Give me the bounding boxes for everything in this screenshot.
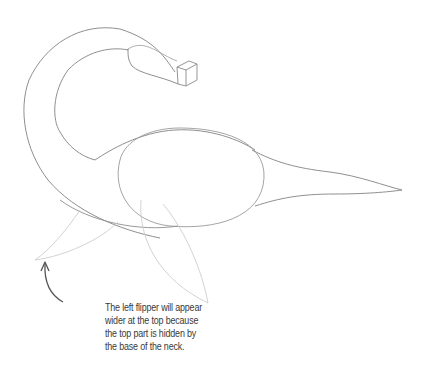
neck-outer-line <box>24 28 175 238</box>
right-flipper <box>141 200 208 303</box>
caption-line-1: The left flipper will appear <box>105 301 225 314</box>
tail-bottom-line <box>255 190 402 206</box>
caption-line-2: wider at the top because <box>105 314 225 327</box>
caption-line-4: the base of the neck. <box>105 340 225 353</box>
caption-line-3: the top part is hidden by <box>105 327 225 340</box>
left-flipper <box>35 210 118 260</box>
tail-top-line <box>252 150 402 190</box>
head-block <box>177 61 197 86</box>
neck-base-line <box>95 130 255 160</box>
head-top-line <box>128 45 177 61</box>
annotation-caption: The left flipper will appear wider at th… <box>105 301 225 353</box>
head-upper-line <box>128 49 178 84</box>
neck-inner-line <box>55 49 128 160</box>
annotation-arrow <box>45 264 63 302</box>
